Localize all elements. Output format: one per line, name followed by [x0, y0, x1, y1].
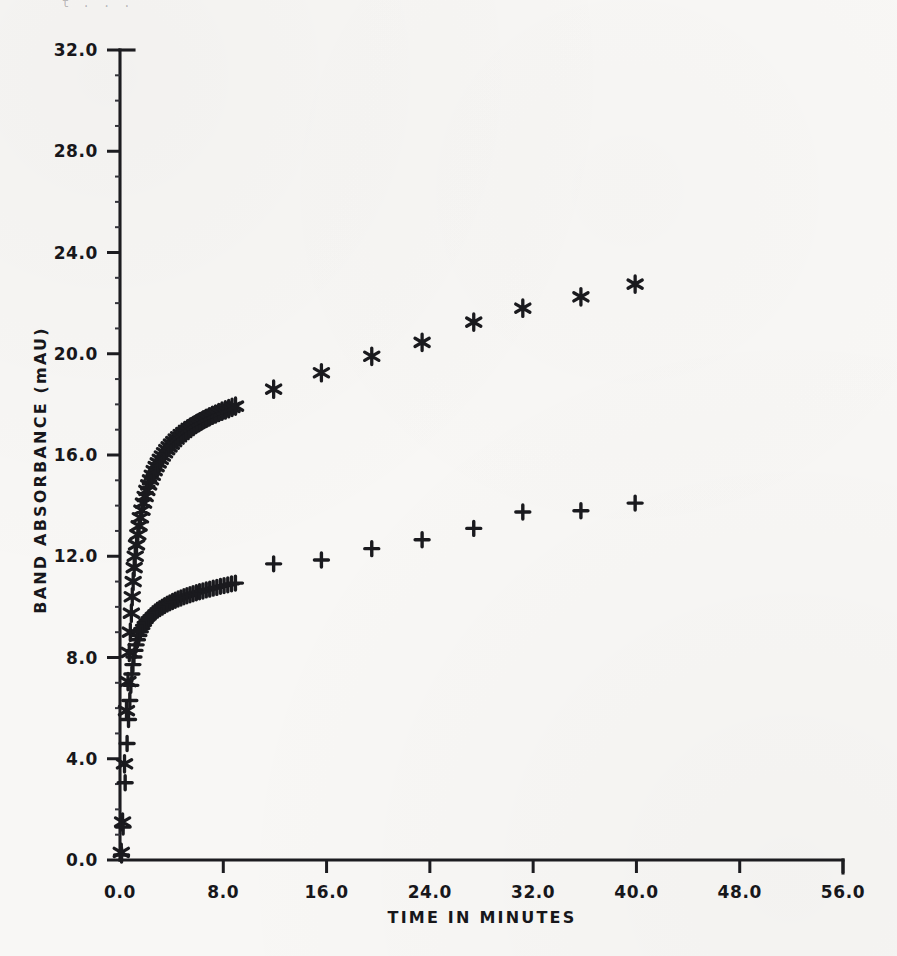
data-point [314, 365, 328, 381]
data-point [267, 557, 281, 571]
data-point [415, 334, 429, 350]
y-tick-label: 20.0 [54, 344, 98, 364]
x-tick-label: 24.0 [408, 882, 452, 902]
data-point [415, 533, 429, 547]
data-point [116, 820, 130, 834]
data-point [267, 381, 281, 397]
y-tick-label: 24.0 [54, 243, 98, 263]
scatter-plot: 0.04.08.012.016.020.024.028.032.00.08.01… [0, 0, 897, 956]
x-tick-label: 8.0 [207, 882, 239, 902]
ticks-group [107, 50, 843, 873]
series-asterisk [114, 276, 642, 861]
data-point [628, 276, 642, 292]
x-tick-label: 40.0 [614, 882, 658, 902]
x-axis-title: TIME IN MINUTES [388, 908, 577, 927]
data-point [124, 605, 138, 621]
x-tick-label: 56.0 [821, 882, 865, 902]
axes-group [120, 50, 843, 873]
y-tick-label: 16.0 [54, 445, 98, 465]
y-tick-label: 8.0 [66, 648, 98, 668]
y-tick-label: 12.0 [54, 546, 98, 566]
figure-canvas: t . . . 0.04.08.012.016.020.024.028.032.… [0, 0, 897, 956]
x-tick-label: 0.0 [104, 882, 136, 902]
data-point [628, 496, 642, 510]
data-series-group [114, 276, 642, 862]
data-point [467, 521, 481, 535]
x-tick-label: 32.0 [511, 882, 555, 902]
y-tick-label: 4.0 [66, 749, 98, 769]
y-tick-label: 32.0 [54, 40, 98, 60]
x-tick-label: 16.0 [304, 882, 348, 902]
data-point [120, 737, 134, 751]
y-axis-title: BAND ABSORBANCE (mAU) [31, 326, 50, 613]
data-point [516, 505, 530, 519]
data-point [574, 504, 588, 518]
series-plus [115, 496, 643, 862]
x-tick-label: 48.0 [718, 882, 762, 902]
data-point [314, 553, 328, 567]
y-tick-label: 28.0 [54, 141, 98, 161]
data-point [574, 289, 588, 305]
data-point [516, 300, 530, 316]
y-tick-label: 0.0 [66, 850, 98, 870]
tick-labels-group: 0.04.08.012.016.020.024.028.032.00.08.01… [54, 40, 866, 902]
data-point [467, 314, 481, 330]
data-point [365, 542, 379, 556]
data-point [365, 348, 379, 364]
